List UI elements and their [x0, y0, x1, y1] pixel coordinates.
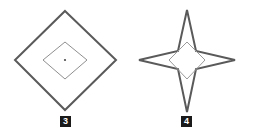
figure-canvas: 3 4: [0, 0, 254, 134]
figure-label-4: 4: [181, 116, 192, 127]
outer-diamond-figure-3: [15, 11, 116, 110]
figure-drawing-layer: [0, 0, 254, 134]
figures-svg: [0, 0, 254, 134]
figure-label-3: 3: [60, 116, 71, 127]
inner-diamond-figure-4: [169, 42, 205, 79]
center-dot-figure-3: [64, 59, 66, 61]
four-pointed-star-figure-4: [139, 10, 235, 112]
inner-diamond-figure-3: [43, 42, 87, 79]
